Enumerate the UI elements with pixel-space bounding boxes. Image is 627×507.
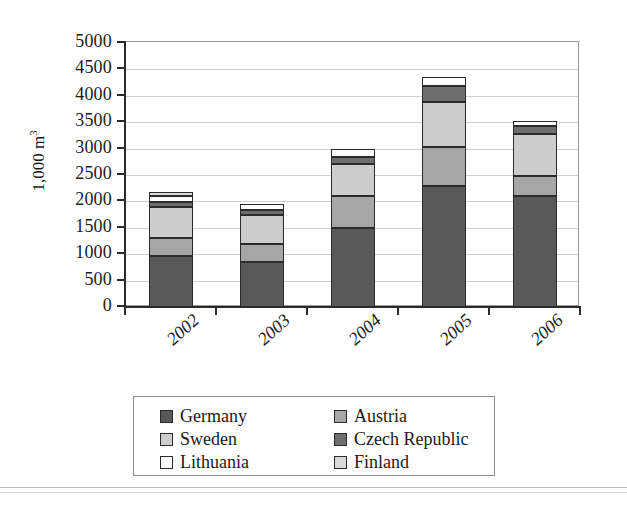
legend-item-label: Sweden [180,429,237,449]
legend-item-germany[interactable]: Germany [160,405,249,427]
bar-segment-2006-lithuania[interactable] [513,121,557,126]
legend-item-sweden[interactable]: Sweden [160,428,249,450]
legend-item-finland[interactable]: Finland [334,451,468,473]
legend-item-label: Czech Republic [354,429,468,449]
page-divider-secondary [0,492,627,493]
bar-segment-2003-sweden[interactable] [240,215,284,244]
x-axis-tick [124,306,126,315]
y-axis-tick [117,279,126,281]
x-axis-tick [579,306,581,315]
x-axis-tick [397,306,399,315]
legend-item-label: Lithuania [180,452,249,472]
plot-area [124,41,579,306]
bar-segment-2006-austria[interactable] [513,176,557,196]
legend-item-label: Austria [354,406,407,426]
y-axis-tick [117,147,126,149]
bar-segment-2002-germany[interactable] [149,256,193,307]
bar-segment-2006-czech-republic[interactable] [513,126,557,134]
y-axis-tick-label: 500 [48,270,112,288]
y-axis-title: 1,000 m3 [27,101,49,221]
y-axis-tick [117,173,126,175]
y-axis-tick-label: 1500 [48,217,112,235]
legend-swatch-icon [160,456,173,469]
bar-segment-2006-sweden[interactable] [513,134,557,176]
x-axis-tick [488,306,490,315]
bar-segment-2002-austria[interactable] [149,238,193,256]
bar-segment-2004-sweden[interactable] [331,164,375,196]
y-axis-tick-label: 4500 [48,58,112,76]
y-axis-tick-label: 3500 [48,111,112,129]
legend-item-czech-republic[interactable]: Czech Republic [334,428,468,450]
y-axis-tick [117,67,126,69]
legend: GermanySwedenLithuania AustriaCzech Repu… [133,396,495,476]
legend-swatch-icon [334,433,347,446]
legend-swatch-icon [160,433,173,446]
bar-segment-2003-lithuania[interactable] [240,204,284,210]
bar-segment-2003-germany[interactable] [240,262,284,307]
y-axis-tick-label: 1000 [48,243,112,261]
y-axis-tick [117,120,126,122]
y-axis-tick [117,199,126,201]
y-axis-title-text: 1,000 m [29,136,48,192]
y-axis-tick [117,252,126,254]
x-axis-tick [306,306,308,315]
y-axis-tick [117,94,126,96]
legend-item-austria[interactable]: Austria [334,405,468,427]
y-axis-tick-label: 5000 [48,32,112,50]
bar-segment-2002-finland[interactable] [149,192,193,196]
bar-segment-2004-czech-republic[interactable] [331,157,375,165]
y-axis-tick-label: 2000 [48,190,112,208]
bar-2005[interactable] [422,42,466,307]
legend-item-lithuania[interactable]: Lithuania [160,451,249,473]
bar-segment-2005-germany[interactable] [422,186,466,307]
bar-segment-2002-sweden[interactable] [149,207,193,238]
legend-swatch-icon [334,456,347,469]
bar-segment-2005-czech-republic[interactable] [422,86,466,102]
bar-segment-2004-austria[interactable] [331,196,375,228]
bar-segment-2005-lithuania[interactable] [422,77,466,86]
y-axis-tick-label: 3000 [48,138,112,156]
bar-segment-2004-lithuania[interactable] [331,149,375,157]
y-axis-tick-label: 2500 [48,164,112,182]
legend-item-label: Finland [354,452,409,472]
bar-2003[interactable] [240,42,284,307]
legend-column-right: AustriaCzech RepublicFinland [334,405,468,474]
stacked-bar-chart-figure: 5000450040003500300025002000150010005000… [0,0,627,507]
bar-segment-2003-czech-republic[interactable] [240,210,284,214]
bar-segment-2004-germany[interactable] [331,228,375,307]
y-axis-tick [117,226,126,228]
legend-item-label: Germany [180,406,247,426]
bar-segment-2002-czech-republic[interactable] [149,202,193,207]
legend-swatch-icon [334,410,347,423]
bar-segment-2005-sweden[interactable] [422,102,466,147]
legend-column-left: GermanySwedenLithuania [160,405,249,474]
bar-2002[interactable] [149,42,193,307]
bar-2006[interactable] [513,42,557,307]
bar-segment-2006-germany[interactable] [513,196,557,307]
y-axis-tick-label: 4000 [48,85,112,103]
bar-segment-2002-lithuania[interactable] [149,196,193,203]
bar-2004[interactable] [331,42,375,307]
page-divider-primary [0,487,627,488]
bar-segment-2003-austria[interactable] [240,244,284,262]
y-axis-title-exponent: 3 [27,130,39,136]
y-axis-tick-label: 0 [48,296,112,314]
bar-segment-2005-austria[interactable] [422,147,466,186]
x-axis-tick [215,306,217,315]
y-axis-tick [117,41,126,43]
legend-swatch-icon [160,410,173,423]
